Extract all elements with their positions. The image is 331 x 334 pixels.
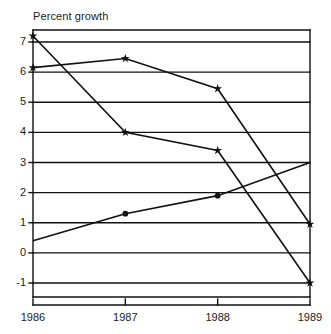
- x-tick-label-1988: 1988: [196, 312, 240, 323]
- x-axis-ticks: [29, 42, 310, 305]
- y-tick-label-3: 3: [6, 157, 26, 168]
- y-tick-label-2: 2: [6, 187, 26, 198]
- x-tick-label-1987: 1987: [103, 312, 147, 323]
- y-tick-label-5: 5: [6, 96, 26, 107]
- data-series: [29, 31, 315, 286]
- series-line: [33, 163, 310, 241]
- y-tick-label-1: 1: [6, 217, 26, 228]
- percent-growth-chart: Percent growth 76543210-1 19861987198819…: [0, 0, 331, 334]
- data-point-dot-marker: [215, 193, 221, 199]
- y-tick-label-4: 4: [6, 126, 26, 137]
- data-point-dot-marker: [122, 211, 128, 217]
- y-tick-label-7: 7: [6, 36, 26, 47]
- series-series-1: [29, 31, 315, 286]
- x-tick-label-1989: 1989: [288, 312, 331, 323]
- plot-area: [0, 0, 331, 334]
- series-series-3: [33, 163, 310, 241]
- y-tick-label-0: 0: [6, 247, 26, 258]
- y-tick-label-6: 6: [6, 66, 26, 77]
- y-tick-label--1: -1: [6, 277, 26, 288]
- x-tick-label-1986: 1986: [11, 312, 55, 323]
